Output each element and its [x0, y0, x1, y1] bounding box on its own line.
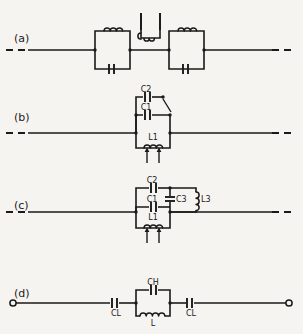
row-c-l1-tuning-arrows: [145, 228, 162, 244]
row-a-tank-1: [93, 28, 131, 74]
row-a-tank2-top-loop: [169, 31, 204, 50]
row-b-switch-pivot: [161, 95, 164, 98]
row-b-node-c1-right: [168, 113, 171, 116]
row-d-l-left-lead: [136, 303, 140, 316]
row-c-l3-inductor-icon: [196, 192, 199, 211]
row-c-c1-left-branch: [136, 207, 149, 212]
row-a-tank1-node-left: [93, 48, 96, 51]
row-a-tank-2: [167, 28, 205, 74]
row-a-shunt-outer-loop: [141, 13, 160, 38]
row-label-c: (c): [14, 199, 29, 212]
row-a-shunt-tank: [138, 13, 160, 41]
circuit-row-b: (b) C2 C1 L1: [6, 85, 296, 163]
row-c-label-c3: C3: [176, 195, 187, 204]
row-d-label-l: L: [151, 319, 156, 328]
row-c-label-l1: L1: [148, 213, 158, 222]
circuit-row-c: (c) C2 C3 L3 C1 L1: [6, 176, 296, 243]
row-a-tank2-bottom-loop: [169, 50, 204, 69]
row-label-a: (a): [14, 32, 29, 45]
row-b-l1-tuning-arrows: [145, 148, 162, 164]
row-d-ch-right-branch: [158, 290, 170, 303]
row-b-node-c1-left: [134, 113, 137, 116]
row-c-label-l3: L3: [201, 195, 211, 204]
row-b-c1-right-branch: [152, 115, 170, 133]
circuit-row-a: (a): [6, 13, 296, 74]
row-c-l3-bottom-lead: [170, 211, 196, 212]
row-a-tank1-top-loop: [95, 31, 130, 50]
row-d-l-inductor-icon: [140, 313, 165, 316]
circuit-figure: (a): [0, 0, 303, 334]
row-label-b: (b): [14, 111, 30, 124]
row-b-label-l1: L1: [148, 133, 158, 142]
row-a-tank1-bottom-loop: [95, 50, 130, 69]
row-d-l-right-lead: [165, 303, 170, 316]
row-d-label-cl-left: CL: [111, 309, 122, 318]
row-d-label-ch: CH: [147, 278, 159, 287]
row-c-l3-top-lead: [170, 188, 196, 192]
row-d-terminal-left[interactable]: [10, 300, 16, 306]
row-d-label-cl-right: CL: [186, 309, 197, 318]
row-d-terminal-right[interactable]: [286, 300, 292, 306]
row-label-d: (d): [14, 287, 30, 300]
row-d-ch-left-branch: [136, 290, 149, 303]
row-b-switch-blade: [163, 99, 171, 112]
row-a-tank2-node-left: [167, 48, 170, 51]
row-a-shunt-inductor-coil: [144, 39, 154, 42]
circuit-row-d: (d) CL CH L CL: [10, 278, 292, 328]
row-b-c1-left-branch: [136, 115, 143, 133]
row-b-switch[interactable]: [161, 95, 171, 112]
